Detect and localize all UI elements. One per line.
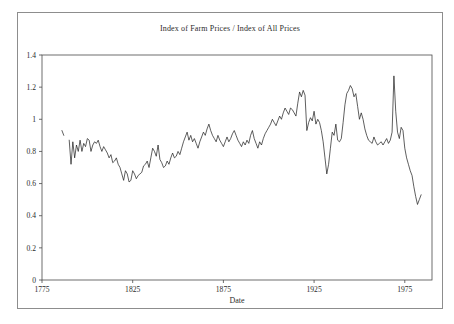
x-axis-title: Date (229, 296, 245, 305)
y-axis-tick-group: 00.20.40.60.811.21.4 (27, 51, 43, 285)
data-series-line (69, 76, 421, 205)
y-tick-label: 0.8 (27, 147, 37, 156)
y-tick-label: 0 (32, 276, 36, 285)
x-tick-label: 1975 (397, 285, 412, 294)
x-tick-label: 1825 (125, 285, 140, 294)
plot-frame (42, 55, 432, 280)
y-tick-label: 1.4 (27, 51, 37, 60)
figure-container: Index of Farm Prices / Index of All Pric… (0, 0, 454, 324)
data-series-lead-segment (62, 131, 64, 136)
x-tick-label: 1875 (216, 285, 231, 294)
y-tick-label: 0.2 (27, 244, 37, 253)
chart-plot-area: 00.20.40.60.811.21.4 1775182518751925197… (0, 0, 454, 324)
x-tick-label: 1925 (306, 285, 321, 294)
y-tick-label: 0.6 (27, 179, 37, 188)
x-axis-tick-group: 17751825187519251975 (34, 280, 412, 294)
x-tick-label: 1775 (34, 285, 49, 294)
y-tick-label: 0.4 (27, 211, 37, 220)
y-tick-label: 1.2 (27, 83, 37, 92)
y-tick-label: 1 (32, 115, 36, 124)
